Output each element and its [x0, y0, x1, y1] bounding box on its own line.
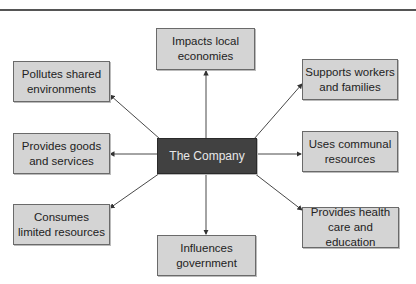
- node-label: Consumes limited resources: [18, 210, 105, 240]
- arrow-bottom-right: [254, 173, 302, 210]
- node-supports-workers-and-families: Supports workers and families: [302, 59, 398, 100]
- node-influences-government: Influences government: [157, 235, 256, 276]
- node-impacts-local-economies: Impacts local economies: [156, 28, 255, 70]
- node-pollutes-shared-environments: Pollutes shared environments: [13, 61, 110, 102]
- node-provides-health-care-and-education: Provides health care and education: [302, 207, 399, 248]
- node-label: Impacts local economies: [172, 34, 239, 64]
- node-label: Provides goods and services: [22, 139, 101, 169]
- node-consumes-limited-resources: Consumes limited resources: [13, 204, 110, 245]
- center-label: The Company: [169, 149, 244, 164]
- node-the-company: The Company: [157, 138, 257, 174]
- node-label: Influences government: [176, 241, 237, 271]
- arrow-top-left: [110, 95, 160, 139]
- arrow-top-right: [254, 84, 302, 139]
- node-label: Supports workers and families: [305, 65, 394, 95]
- node-label: Uses communal resources: [309, 137, 391, 167]
- node-label: Pollutes shared environments: [22, 67, 101, 97]
- arrow-bottom-left: [110, 173, 160, 208]
- node-uses-communal-resources: Uses communal resources: [302, 131, 398, 172]
- node-provides-goods-and-services: Provides goods and services: [13, 133, 110, 174]
- node-label: Provides health care and education: [303, 205, 398, 250]
